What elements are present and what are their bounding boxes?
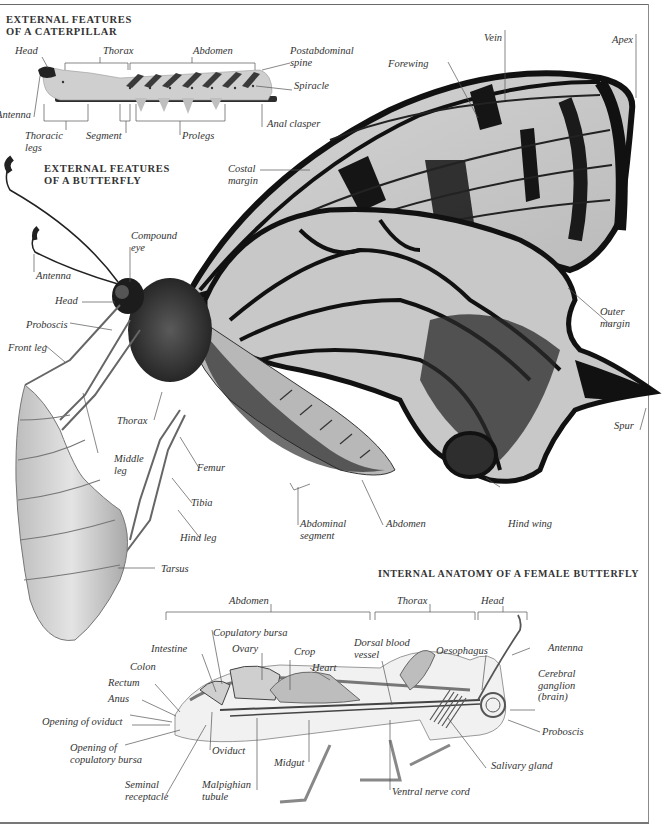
label-heart: Heart	[312, 662, 337, 674]
label-rectum: Rectum	[108, 677, 140, 689]
label-segment: Segment	[86, 130, 122, 142]
label-femur: Femur	[197, 462, 225, 474]
label-cerebral-ganglion: Cerebral ganglion (brain)	[538, 668, 576, 703]
label-hind-wing: Hind wing	[508, 518, 552, 530]
label-butterfly-abdomen: Abdomen	[386, 518, 426, 530]
label-midgut: Midgut	[274, 757, 304, 769]
label-costal-margin: Costal margin	[228, 163, 258, 186]
internal-anatomy-drawing	[175, 615, 521, 802]
label-ovary: Ovary	[232, 643, 258, 655]
label-front-leg: Front leg	[8, 342, 47, 354]
caterpillar-drawing	[38, 66, 277, 114]
label-caterpillar-thorax: Thorax	[103, 45, 133, 57]
label-butterfly-thorax: Thorax	[117, 415, 147, 427]
label-internal-antenna: Antenna	[548, 642, 583, 654]
label-caterpillar-head: Head	[15, 45, 38, 57]
label-region-abdomen: Abdomen	[229, 595, 269, 607]
label-salivary-gland: Salivary gland	[491, 760, 553, 772]
label-outer-margin: Outer margin	[600, 306, 630, 329]
label-butterfly-proboscis: Proboscis	[26, 319, 68, 331]
label-malpighian-tubule: Malpighian tubule	[202, 779, 251, 802]
label-region-head: Head	[481, 595, 504, 607]
label-butterfly-head: Head	[55, 295, 78, 307]
butterfly-heading-line1: EXTERNAL FEATURES	[44, 163, 170, 175]
label-anal-clasper: Anal clasper	[267, 118, 320, 130]
chrysalis-drawing	[16, 385, 128, 641]
caterpillar-heading: EXTERNAL FEATURES OF A CATERPILLAR	[6, 14, 132, 38]
label-apex: Apex	[612, 34, 633, 46]
label-spur: Spur	[614, 420, 634, 432]
label-thoracic-legs: Thoracic legs	[25, 130, 63, 153]
label-opening-of-oviduct: Opening of oviduct	[42, 716, 122, 728]
book-page: EXTERNAL FEATURES OF A CATERPILLAR EXTER…	[0, 0, 670, 829]
label-opening-of-copulatory-bursa: Opening of copulatory bursa	[70, 742, 142, 765]
internal-anatomy-heading: INTERNAL ANATOMY OF A FEMALE BUTTERFLY	[378, 568, 639, 580]
label-intestine: Intestine	[151, 643, 187, 655]
label-butterfly-antenna: Antenna	[36, 270, 71, 282]
label-vein: Vein	[484, 32, 502, 44]
label-tarsus: Tarsus	[161, 563, 189, 575]
label-copulatory-bursa: Copulatory bursa	[213, 627, 287, 639]
label-hind-leg: Hind leg	[180, 532, 216, 544]
label-seminal-receptacle: Seminal receptacle	[125, 779, 168, 802]
label-dorsal-blood-vessel: Dorsal blood vessel	[354, 637, 410, 660]
label-spiracle: Spiracle	[294, 80, 329, 92]
label-compound-eye: Compound eye	[131, 230, 177, 253]
label-ventral-nerve-cord: Ventral nerve cord	[392, 786, 470, 798]
label-forewing: Forewing	[388, 58, 428, 70]
label-tibia: Tibia	[191, 497, 213, 509]
label-abdominal-segment: Abdominal segment	[300, 518, 346, 541]
label-oesophagus: Oesophagus	[436, 645, 488, 657]
label-internal-proboscis: Proboscis	[542, 726, 584, 738]
label-prolegs: Prolegs	[182, 130, 214, 142]
caterpillar-heading-line1: EXTERNAL FEATURES	[6, 14, 132, 26]
butterfly-heading-line2: OF A BUTTERFLY	[44, 175, 170, 187]
butterfly-heading: EXTERNAL FEATURES OF A BUTTERFLY	[44, 163, 170, 187]
label-crop: Crop	[294, 646, 315, 658]
label-colon: Colon	[130, 661, 156, 673]
label-middle-leg: Middle leg	[114, 453, 144, 476]
anatomy-illustration	[0, 0, 670, 829]
label-caterpillar-antenna: Antenna	[0, 109, 31, 121]
label-oviduct: Oviduct	[212, 745, 245, 757]
label-anus: Anus	[108, 693, 129, 705]
label-caterpillar-abdomen: Abdomen	[193, 45, 233, 57]
caterpillar-heading-line2: OF A CATERPILLAR	[6, 26, 132, 38]
label-postabdominal-spine: Postabdominal spine	[290, 45, 354, 68]
label-region-thorax: Thorax	[397, 595, 427, 607]
